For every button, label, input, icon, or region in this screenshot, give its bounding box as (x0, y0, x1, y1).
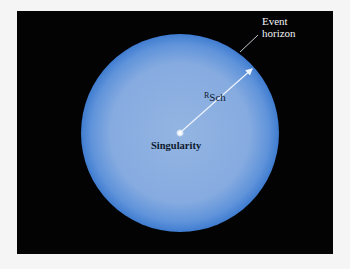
event-horizon-leader-line (240, 35, 258, 52)
event-horizon-label: Event horizon (262, 15, 296, 39)
singularity-label: Singularity (151, 140, 201, 151)
schwarzschild-radius-label: RSch (204, 91, 226, 103)
black-hole-diagram (0, 0, 350, 269)
